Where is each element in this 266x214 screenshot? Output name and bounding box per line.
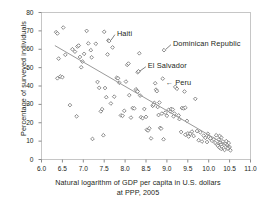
x-axis-title-line1: Natural logarithm of GDP per capita in U… (20, 178, 256, 188)
x-axis-title: Natural logarithm of GDP per capita in U… (20, 178, 256, 197)
y-tick-label: 40 (18, 82, 34, 89)
chart-figure: Percentage of surveyed individuals Natur… (0, 0, 266, 214)
y-tick-label: 30 (18, 100, 34, 107)
y-tick-label: 60 (18, 45, 34, 52)
y-tick-label: 10 (18, 137, 34, 144)
x-axis-title-line2: at PPP, 2005 (20, 188, 256, 198)
x-tick-label: 11.0 (239, 165, 263, 172)
y-tick-label: 50 (18, 64, 34, 71)
annotation-label: El Salvador (148, 61, 187, 70)
y-tick-label: 0 (18, 156, 34, 163)
annotation-label: Dominican Republic (173, 39, 241, 48)
y-tick-label: 20 (18, 119, 34, 126)
y-tick-label: 70 (18, 27, 34, 34)
annotation-label: Haiti (117, 29, 132, 38)
annotation-label: ← Peru (166, 78, 192, 87)
y-tick-label: 80 (18, 9, 34, 16)
